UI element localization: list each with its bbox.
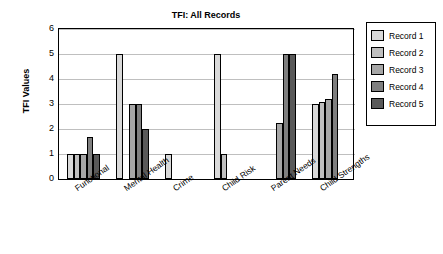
legend-swatch xyxy=(371,64,384,75)
chart-title: TFI: All Records xyxy=(58,10,354,20)
bar xyxy=(332,74,338,179)
bar-group xyxy=(59,29,108,179)
legend-label: Record 5 xyxy=(389,99,424,109)
y-tick-label: 2 xyxy=(36,124,54,132)
y-tick-label: 5 xyxy=(36,49,54,57)
chart-area: TFI: All Records TFI Values 0123456 Func… xyxy=(0,0,365,254)
legend-item: Record 2 xyxy=(371,44,431,61)
bar xyxy=(116,54,122,179)
legend-item: Record 1 xyxy=(371,27,431,44)
y-axis-ticks: 0123456 xyxy=(34,28,54,180)
legend-swatch xyxy=(371,47,384,58)
y-axis-title: TFI Values xyxy=(21,61,31,121)
legend-item: Record 3 xyxy=(371,61,431,78)
legend-swatch xyxy=(371,98,384,109)
bar-group xyxy=(255,29,304,179)
bar xyxy=(221,154,227,179)
y-tick-label: 0 xyxy=(36,174,54,182)
bar-group xyxy=(108,29,157,179)
x-axis-labels: FunctionalMental HealthCrimeChild RiskPa… xyxy=(58,181,354,241)
legend: Record 1Record 2Record 3Record 4Record 5 xyxy=(366,22,436,126)
legend-label: Record 3 xyxy=(389,65,424,75)
legend-label: Record 4 xyxy=(389,82,424,92)
legend-item: Record 5 xyxy=(371,95,431,112)
bar-group xyxy=(206,29,255,179)
legend-item: Record 4 xyxy=(371,78,431,95)
legend-label: Record 2 xyxy=(389,48,424,58)
bar xyxy=(289,54,295,179)
legend-swatch xyxy=(371,81,384,92)
y-tick-label: 1 xyxy=(36,149,54,157)
y-tick-label: 3 xyxy=(36,99,54,107)
y-tick-label: 4 xyxy=(36,74,54,82)
y-tick-label: 6 xyxy=(36,24,54,32)
legend-label: Record 1 xyxy=(389,31,424,41)
legend-swatch xyxy=(371,30,384,41)
chart-screenshot: TFI: All Records TFI Values 0123456 Func… xyxy=(0,0,443,254)
